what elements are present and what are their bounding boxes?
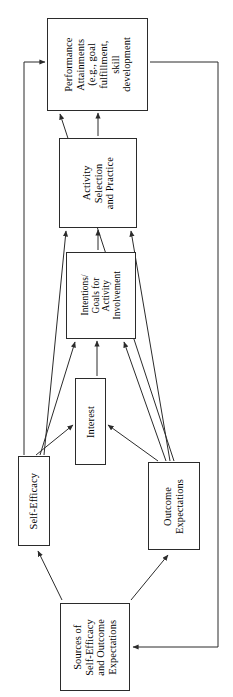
edge-selfefficacy-to-intentions bbox=[40, 342, 75, 455]
edge-sources-to-selfefficacy bbox=[38, 551, 62, 600]
edge-outcome-to-intentions bbox=[124, 342, 166, 461]
edge-outcome-to-activity bbox=[131, 231, 170, 461]
node-sources-label: Sources of Self-Efficacy and Outcome Exp… bbox=[72, 619, 119, 676]
edge-selfefficacy-to-performance bbox=[24, 62, 45, 455]
node-interest-label: Interest bbox=[85, 406, 97, 438]
edge-performance-to-sources bbox=[133, 62, 218, 647]
node-activity-selection-and-practice-label: Activity Selection and Practice bbox=[81, 157, 116, 209]
node-performance-attainments-label: Performance Attainments (e.g., goal fulf… bbox=[63, 37, 133, 92]
node-self-efficacy-label: Self-Efficacy bbox=[28, 473, 40, 530]
node-sources-of-self-efficacy-and-outcome-expectations[interactable]: Sources of Self-Efficacy and Outcome Exp… bbox=[60, 603, 130, 691]
edge-selfefficacy-to-activity bbox=[44, 231, 66, 455]
node-self-efficacy[interactable]: Self-Efficacy bbox=[18, 456, 50, 546]
node-outcome-expectations-label: Outcome Expectations bbox=[162, 479, 185, 534]
node-performance-attainments[interactable]: Performance Attainments (e.g., goal fulf… bbox=[47, 18, 148, 111]
edge-outcome-to-interest bbox=[108, 425, 158, 461]
diagram-canvas: Performance Attainments (e.g., goal fulf… bbox=[0, 0, 233, 697]
edge-selfefficacy-to-interest bbox=[36, 425, 73, 455]
node-intentions-goals-label: Intentions/ Goals for Activity Involveme… bbox=[80, 271, 122, 319]
node-outcome-expectations[interactable]: Outcome Expectations bbox=[148, 462, 200, 550]
node-interest[interactable]: Interest bbox=[75, 378, 106, 465]
node-activity-selection-and-practice[interactable]: Activity Selection and Practice bbox=[59, 138, 137, 228]
node-intentions-goals[interactable]: Intentions/ Goals for Activity Involveme… bbox=[66, 252, 136, 339]
edge-sources-to-outcome bbox=[131, 555, 168, 600]
